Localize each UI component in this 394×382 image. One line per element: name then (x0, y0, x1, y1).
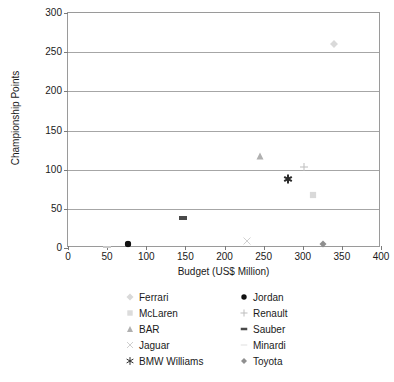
scatter-chart-figure: Championship Points 050100150200250300 0… (0, 0, 394, 382)
x-tick-mark (381, 246, 382, 250)
legend-column-left: FerrariMcLarenBARJaguarBMW Williams (122, 289, 203, 369)
x-tick-label: 400 (373, 252, 390, 262)
x-tick-mark (264, 246, 265, 250)
chart-legend: FerrariMcLarenBARJaguarBMW Williams Jord… (0, 289, 394, 382)
y-tick-label: 150 (45, 126, 62, 136)
legend-item-renault[interactable]: Renault (236, 305, 287, 321)
legend-item-label: Ferrari (139, 292, 168, 303)
x-tick-label: 250 (255, 252, 272, 262)
chart-plot-area: Championship Points 050100150200250300 0… (0, 0, 394, 290)
x-tick-label: 50 (102, 252, 113, 262)
legend-item-bar[interactable]: BAR (122, 321, 203, 337)
data-point-jaguar (243, 236, 252, 245)
x-axis-title: Budget (US$ Million) (67, 266, 380, 278)
y-axis-title: Championship Points (10, 38, 22, 198)
y-tick-label: 300 (45, 8, 62, 18)
legend-swatch (236, 337, 252, 353)
x-tick-mark (146, 246, 147, 250)
legend-item-label: Toyota (253, 356, 282, 367)
gridline (68, 91, 379, 92)
gridline (68, 209, 379, 210)
asterisk-marker-icon (126, 357, 135, 366)
legend-item-mclaren[interactable]: McLaren (122, 305, 203, 321)
legend-item-minardi[interactable]: Minardi (236, 337, 287, 353)
legend-item-sauber[interactable]: Sauber (236, 321, 287, 337)
legend-swatch (122, 353, 138, 369)
legend-item-label: Jaguar (139, 340, 170, 351)
x-tick-mark (342, 246, 343, 250)
legend-swatch (236, 289, 252, 305)
data-point-minardi (103, 246, 111, 248)
diamond-plus-marker-icon (126, 293, 134, 301)
x-tick-mark (225, 246, 226, 250)
legend-item-jaguar[interactable]: Jaguar (122, 337, 203, 353)
data-point-jordan (125, 241, 132, 248)
y-tick-label: 100 (45, 165, 62, 175)
x-tick-label: 100 (138, 252, 155, 262)
y-tick-label: 200 (45, 86, 62, 96)
diamond-marker-icon (319, 240, 327, 248)
dash-marker-icon (179, 216, 187, 220)
triangle-marker-icon (256, 152, 264, 160)
asterisk-marker-icon (283, 174, 293, 184)
x-tick-label: 350 (334, 252, 351, 262)
x-tick-mark (303, 246, 304, 250)
data-point-bmw-williams (283, 174, 293, 184)
legend-swatch (236, 321, 252, 337)
legend-swatch (122, 289, 138, 305)
dash-thin-marker-icon (241, 345, 248, 346)
plot-frame: 050100150200250300 050100150200250300350… (67, 12, 380, 247)
x-tick-label: 150 (177, 252, 194, 262)
x-tick-label: 200 (216, 252, 233, 262)
data-point-ferrari (330, 40, 339, 49)
triangle-marker-icon (127, 326, 134, 333)
legend-item-label: Minardi (253, 340, 286, 351)
x-tick-mark (185, 246, 186, 250)
plus-marker-icon (240, 309, 248, 317)
legend-swatch (236, 305, 252, 321)
circle-marker-icon (125, 241, 132, 248)
legend-item-label: Jordan (253, 292, 284, 303)
data-point-renault (299, 163, 308, 172)
legend-item-jordan[interactable]: Jordan (236, 289, 287, 305)
legend-item-label: Renault (253, 308, 287, 319)
y-tick-mark (64, 170, 68, 171)
legend-item-label: BMW Williams (139, 356, 203, 367)
y-tick-label: 250 (45, 47, 62, 57)
data-point-mclaren (309, 191, 316, 198)
legend-swatch (122, 337, 138, 353)
dash-marker-icon (241, 328, 248, 331)
y-tick-label: 50 (51, 204, 62, 214)
legend-item-toyota[interactable]: Toyota (236, 353, 287, 369)
data-point-bar (256, 152, 264, 160)
y-tick-mark (64, 91, 68, 92)
plus-marker-icon (299, 163, 308, 172)
x-tick-label: 0 (65, 252, 71, 262)
legend-item-ferrari[interactable]: Ferrari (122, 289, 203, 305)
circle-marker-icon (241, 294, 247, 300)
legend-swatch (122, 321, 138, 337)
legend-column-right: JordanRenaultSauberMinardiToyota (236, 289, 287, 369)
y-tick-mark (64, 209, 68, 210)
dash-thin-marker-icon (103, 246, 111, 248)
legend-swatch (236, 353, 252, 369)
y-tick-mark (64, 13, 68, 14)
gridline (68, 131, 379, 132)
square-marker-icon (127, 310, 133, 316)
diamond-plus-marker-icon (330, 40, 339, 49)
gridline (68, 170, 379, 171)
legend-item-bmw-williams[interactable]: BMW Williams (122, 353, 203, 369)
x-tick-label: 300 (294, 252, 311, 262)
data-point-toyota (319, 240, 327, 248)
diamond-marker-icon (241, 358, 248, 365)
data-point-sauber (179, 216, 187, 220)
y-tick-mark (64, 52, 68, 53)
legend-item-label: McLaren (139, 308, 178, 319)
legend-item-label: BAR (139, 324, 160, 335)
cross-x-marker-icon (243, 236, 252, 245)
legend-swatch (122, 305, 138, 321)
x-tick-mark (68, 246, 69, 250)
y-tick-label: 0 (56, 243, 62, 253)
y-tick-mark (64, 131, 68, 132)
legend-item-label: Sauber (253, 324, 285, 335)
